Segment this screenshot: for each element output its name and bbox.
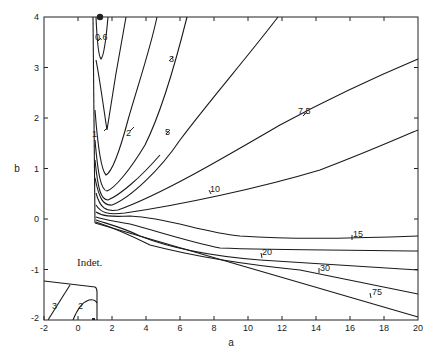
svg-text:-1: -1 xyxy=(31,265,39,275)
svg-text:0: 0 xyxy=(34,214,39,224)
svg-text:6: 6 xyxy=(177,323,182,333)
svg-text:30: 30 xyxy=(320,263,330,273)
svg-text:12: 12 xyxy=(277,323,287,333)
svg-text:5: 5 xyxy=(165,127,170,137)
x-axis-title: a xyxy=(228,337,234,348)
svg-text:2: 2 xyxy=(126,128,131,138)
svg-text:3: 3 xyxy=(52,301,57,311)
svg-text:1: 1 xyxy=(34,164,39,174)
svg-text:4: 4 xyxy=(34,12,39,22)
svg-text:20: 20 xyxy=(262,247,272,257)
svg-text:15: 15 xyxy=(353,229,363,239)
y-axis-ticks xyxy=(44,68,418,270)
marker-dot xyxy=(97,14,103,20)
contour-lines xyxy=(44,17,418,320)
svg-text:8: 8 xyxy=(211,323,216,333)
svg-text:1: 1 xyxy=(92,129,97,139)
contour-label-marks xyxy=(97,38,371,298)
svg-text:3: 3 xyxy=(169,54,174,64)
svg-text:2: 2 xyxy=(109,323,114,333)
svg-text:-2: -2 xyxy=(40,323,48,333)
svg-text:20: 20 xyxy=(413,323,423,333)
contour-labels: 0.6 1 2 3 5 7.5 10 15 20 30 75 3 2 xyxy=(52,32,382,311)
svg-text:75: 75 xyxy=(372,287,382,297)
svg-text:16: 16 xyxy=(345,323,355,333)
svg-text:10: 10 xyxy=(243,323,253,333)
svg-text:0.6: 0.6 xyxy=(95,32,108,42)
y-tick-labels: 4 3 2 1 0 -1 -2 xyxy=(31,12,39,323)
svg-text:7.5: 7.5 xyxy=(298,106,311,116)
svg-text:3: 3 xyxy=(34,63,39,73)
svg-text:14: 14 xyxy=(311,323,321,333)
svg-text:2: 2 xyxy=(34,113,39,123)
y-axis-title: b xyxy=(14,163,20,174)
plot-frame xyxy=(44,17,418,320)
indeterminate-region-label: Indet. xyxy=(77,256,103,268)
contour-chart: -2 0 2 4 6 8 10 12 14 16 18 20 4 3 2 1 0… xyxy=(0,0,436,353)
svg-text:-2: -2 xyxy=(31,313,39,323)
bottom-marker xyxy=(92,318,95,320)
x-tick-labels: -2 0 2 4 6 8 10 12 14 16 18 20 xyxy=(40,323,423,333)
svg-text:18: 18 xyxy=(379,323,389,333)
svg-text:4: 4 xyxy=(143,323,148,333)
svg-text:0: 0 xyxy=(75,323,80,333)
svg-text:2: 2 xyxy=(78,301,83,311)
svg-text:10: 10 xyxy=(210,184,220,194)
